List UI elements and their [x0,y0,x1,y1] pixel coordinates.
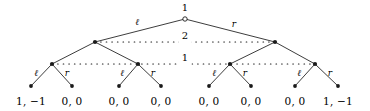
terminal-node [159,84,163,88]
branch-action-label: r [243,69,247,78]
tree-edge [138,64,161,86]
terminal-payoff-label: 0, 0 [109,96,130,107]
decision-node [93,40,97,44]
terminal-node [70,84,74,88]
game-tree-diagram: 1 ℓrℓrℓrℓrℓr211, −10, 00, 00, 00, 00, 00… [0,0,370,111]
branch-action-label: ℓ [212,69,216,78]
tree-edge [52,42,95,64]
branch-action-label: r [328,69,332,78]
terminal-node [117,84,121,88]
terminal-payoff-label: 0, 0 [62,96,83,107]
decision-node [136,62,140,66]
terminal-payoff-label: 1, −1 [323,96,353,107]
decision-node [228,62,232,66]
branch-action-label: r [151,69,155,78]
decision-node [273,40,277,44]
branch-action-label: r [65,69,69,78]
terminal-payoff-label: 0, 0 [151,96,172,107]
terminal-node [207,84,211,88]
decision-node [50,62,54,66]
information-set-player-label: 1 [182,53,188,63]
terminal-payoff-label: 0, 0 [199,96,220,107]
tree-edge [95,19,185,42]
root-node-player-label: 1 [182,3,188,13]
terminal-payoff-label: 0, 0 [285,96,306,107]
tree-edge [275,42,315,64]
terminal-payoff-label: 1, −1 [16,96,46,107]
terminal-node [249,84,253,88]
branch-action-label: ℓ [34,69,38,78]
terminal-node [293,84,297,88]
tree-edge [230,42,275,64]
tree-edge [315,64,338,86]
tree-edge [230,64,251,86]
decision-node-root [183,17,187,21]
terminal-node [336,84,340,88]
information-set-player-label: 2 [182,31,188,41]
root-action-label: r [232,20,236,29]
tree-edge [95,42,138,64]
terminal-payoff-label: 0, 0 [241,96,262,107]
branch-action-label: ℓ [297,69,301,78]
terminal-node [29,84,33,88]
root-action-label: ℓ [135,18,139,27]
tree-edge [185,19,275,42]
decision-node [313,62,317,66]
branch-action-label: ℓ [120,69,124,78]
